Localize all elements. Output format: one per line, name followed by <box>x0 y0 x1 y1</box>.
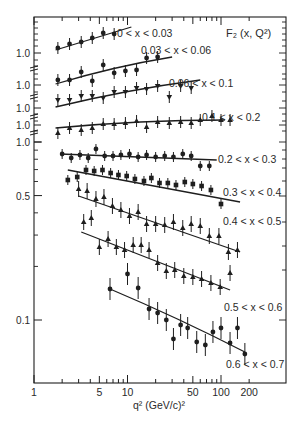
y-tick-label: 1.0 <box>16 48 30 59</box>
data-point <box>75 172 80 182</box>
chart-title: F₂ (x, Q²) <box>226 27 271 39</box>
marker-square <box>219 202 224 207</box>
marker-square <box>66 178 71 183</box>
marker-triangle-up <box>226 249 232 254</box>
marker-triangle-up <box>227 270 233 275</box>
marker-circle <box>180 152 185 157</box>
data-point <box>219 317 224 339</box>
data-point <box>89 122 95 134</box>
data-point <box>101 59 106 71</box>
marker-circle <box>189 154 194 159</box>
marker-circle <box>102 154 107 159</box>
marker-circle <box>136 155 141 160</box>
data-point <box>134 82 140 94</box>
marker-triangle-up <box>134 118 140 123</box>
data-point <box>190 269 196 285</box>
marker-circle <box>235 326 240 331</box>
data-point <box>188 117 194 129</box>
data-point <box>167 91 173 103</box>
data-point <box>226 244 232 260</box>
series-label: 0.3 < x < 0.4 <box>223 186 282 198</box>
marker-square <box>75 175 80 180</box>
y-tick-label: 0.1 <box>16 315 30 326</box>
data-point <box>81 214 87 230</box>
marker-triangle-up <box>181 273 187 278</box>
data-point <box>182 177 187 187</box>
data-point <box>197 218 203 234</box>
data-point <box>84 183 90 199</box>
marker-triangle-up <box>105 236 111 241</box>
data-point <box>191 179 196 189</box>
marker-circle <box>86 156 91 161</box>
data-point <box>227 265 233 281</box>
data-point <box>235 317 240 339</box>
data-point <box>164 309 169 331</box>
marker-circle <box>228 341 233 346</box>
data-point <box>228 332 233 354</box>
marker-circle <box>90 36 95 41</box>
data-point <box>216 228 222 244</box>
marker-circle <box>111 154 116 159</box>
marker-circle <box>125 272 130 277</box>
marker-square <box>149 176 154 181</box>
marker-triangle-up <box>144 221 150 226</box>
data-point <box>174 180 179 190</box>
marker-circle <box>198 164 203 169</box>
data-point <box>102 151 107 161</box>
marker-square <box>157 181 162 186</box>
marker-circle <box>211 330 216 335</box>
marker-circle <box>119 153 124 158</box>
data-point <box>119 150 124 160</box>
marker-circle <box>127 152 132 157</box>
marker-square <box>108 171 113 176</box>
data-point <box>198 161 203 171</box>
marker-circle <box>162 154 167 159</box>
marker-circle <box>55 46 60 51</box>
data-point <box>55 94 61 106</box>
series-labels: 0 < x < 0.030.03 < x < 0.060.06 < x < 0.… <box>117 27 285 370</box>
marker-square <box>124 174 129 179</box>
data-point <box>78 150 83 160</box>
marker-circle <box>144 56 149 61</box>
marker-square <box>191 182 196 187</box>
x-tick-label: 10 <box>122 386 134 398</box>
marker-circle <box>101 63 106 68</box>
data-point <box>188 216 194 232</box>
marker-triangle-up <box>146 247 152 252</box>
data-point <box>219 199 224 209</box>
marker-circle <box>79 70 84 75</box>
data-point <box>209 185 214 195</box>
x-tick-label: 100 <box>212 386 230 398</box>
marker-triangle-up <box>89 125 95 130</box>
series-label: 0.1 < x < 0.2 <box>202 111 261 123</box>
series-label: 0.4 < x < 0.5 <box>223 215 282 227</box>
data-point <box>110 198 116 214</box>
series-label: 0 < x < 0.03 <box>117 27 173 39</box>
marker-circle <box>136 286 141 291</box>
marker-circle <box>194 340 199 345</box>
data-point <box>138 237 144 253</box>
marker-square <box>84 168 89 173</box>
data-point <box>130 237 136 253</box>
marker-circle <box>78 153 83 158</box>
marker-triangle-up <box>178 119 184 124</box>
data-point <box>101 189 107 205</box>
fit-curve <box>110 289 245 352</box>
data-point <box>136 277 141 299</box>
marker-circle <box>219 326 224 331</box>
marker-circle <box>79 40 84 45</box>
marker-circle <box>178 323 183 328</box>
marker-triangle-up <box>76 186 82 191</box>
marker-triangle-up <box>235 247 241 252</box>
data-point <box>90 32 95 44</box>
x-tick-label: 50 <box>187 386 199 398</box>
data-point <box>97 239 103 255</box>
data-point <box>136 152 141 162</box>
marker-triangle-up <box>144 124 150 129</box>
plot-border <box>34 17 286 383</box>
data-point <box>55 127 61 139</box>
data-point <box>180 149 185 159</box>
marker-triangle-down <box>67 98 73 103</box>
series-label: 0.06 < x < 0.1 <box>169 77 233 89</box>
data-point <box>101 27 106 39</box>
